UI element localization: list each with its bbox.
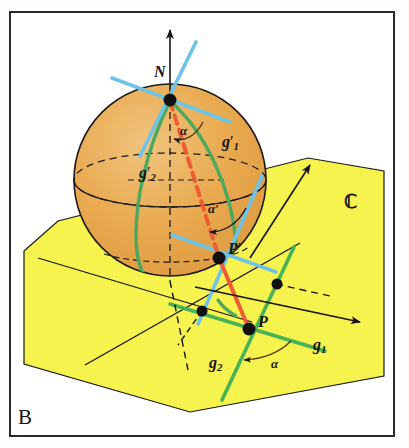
point-plane-left-dot: [197, 306, 208, 317]
point-p-dot: [243, 323, 256, 336]
point-north-pole-dot: [164, 94, 177, 107]
stereographic-projection-diagram: [0, 0, 409, 448]
figure-container: N P′ P g′1 g′2 g1 g2 α α′ α ℂ B: [0, 0, 409, 448]
point-plane-right-dot: [272, 279, 283, 290]
point-p-prime-dot: [213, 252, 226, 265]
